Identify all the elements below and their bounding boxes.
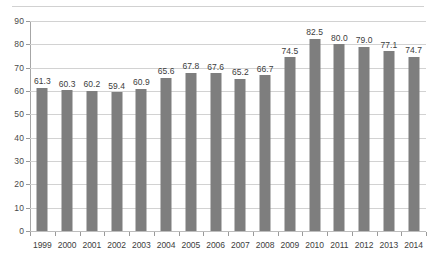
bar[interactable] — [62, 90, 73, 231]
x-axis-tick-label: 2002 — [104, 241, 130, 250]
y-axis-labels: 0102030405060708090 — [0, 0, 24, 264]
bar[interactable] — [408, 57, 419, 231]
y-axis-tick-label: 90 — [2, 17, 24, 26]
x-axis-tick — [426, 232, 427, 236]
x-axis-tick — [203, 232, 204, 236]
x-axis-tick-label: 2010 — [302, 241, 328, 250]
y-axis-tick-label: 80 — [2, 40, 24, 49]
x-axis-tick-label: 2003 — [128, 241, 154, 250]
bar[interactable] — [260, 75, 271, 231]
x-axis-tick — [302, 232, 303, 236]
bar[interactable] — [111, 92, 122, 231]
y-axis-tick — [26, 161, 30, 162]
x-axis: 1999200020012002200320042005200620072008… — [30, 232, 426, 262]
x-axis-tick — [327, 232, 328, 236]
page-separator-rule — [12, 6, 424, 7]
y-axis-tick-label: 30 — [2, 157, 24, 166]
x-axis-tick-label: 2013 — [376, 241, 402, 250]
x-axis-tick-label: 2014 — [401, 241, 427, 250]
x-axis-tick — [179, 232, 180, 236]
x-axis-tick — [228, 232, 229, 236]
bar-chart: 0102030405060708090 61.360.360.259.460.9… — [0, 0, 432, 264]
y-axis-tick-label: 40 — [2, 134, 24, 143]
bar[interactable] — [185, 73, 196, 231]
bar-slot: 79.0 — [352, 21, 377, 231]
x-axis-tick — [80, 232, 81, 236]
bar-slot: 59.4 — [104, 21, 129, 231]
bar-slot: 74.5 — [278, 21, 303, 231]
x-axis-tick — [278, 232, 279, 236]
bar[interactable] — [235, 79, 246, 231]
bar-slot: 80.0 — [327, 21, 352, 231]
x-axis-tick — [154, 232, 155, 236]
x-axis-tick-label: 2004 — [153, 241, 179, 250]
x-axis-tick-label: 2012 — [351, 241, 377, 250]
bar-slot: 77.1 — [377, 21, 402, 231]
bar-slot: 74.7 — [401, 21, 426, 231]
bar[interactable] — [161, 78, 172, 231]
y-axis-tick — [26, 91, 30, 92]
bar-slot: 60.3 — [55, 21, 80, 231]
bar-slot: 65.6 — [154, 21, 179, 231]
x-axis-tick-label: 2009 — [277, 241, 303, 250]
bar-value-label: 74.7 — [399, 46, 429, 55]
bar-slot: 61.3 — [30, 21, 55, 231]
bar-value-label: 60.9 — [126, 78, 156, 87]
y-axis-tick — [26, 138, 30, 139]
bar-slot: 60.9 — [129, 21, 154, 231]
x-axis-tick-label: 2001 — [79, 241, 105, 250]
y-axis-tick-label: 70 — [2, 64, 24, 73]
x-axis-tick — [377, 232, 378, 236]
y-axis-tick — [26, 208, 30, 209]
bar[interactable] — [86, 91, 97, 231]
bar-slot: 65.2 — [228, 21, 253, 231]
bar[interactable] — [284, 57, 295, 231]
bar[interactable] — [37, 88, 48, 231]
x-axis-tick-label: 2007 — [227, 241, 253, 250]
x-axis-tick — [352, 232, 353, 236]
x-axis-tick — [129, 232, 130, 236]
x-axis-tick-label: 2000 — [54, 241, 80, 250]
x-axis-tick-label: 1999 — [29, 241, 55, 250]
x-axis-tick-label: 2011 — [326, 241, 352, 250]
y-axis-tick-label: 60 — [2, 87, 24, 96]
bar[interactable] — [309, 39, 320, 232]
y-axis-tick-label: 20 — [2, 180, 24, 189]
bar-value-label: 66.7 — [250, 65, 280, 74]
bar-slot: 67.8 — [179, 21, 204, 231]
bar[interactable] — [334, 44, 345, 231]
x-axis-tick-label: 2005 — [178, 241, 204, 250]
y-axis-tick-label: 10 — [2, 204, 24, 213]
y-axis-tick — [26, 68, 30, 69]
x-axis-tick — [104, 232, 105, 236]
y-axis-tick — [26, 231, 30, 232]
x-axis-tick-label: 2006 — [203, 241, 229, 250]
x-axis-tick-label: 2008 — [252, 241, 278, 250]
y-axis-tick-label: 0 — [2, 227, 24, 236]
x-axis-tick — [253, 232, 254, 236]
y-axis-tick — [26, 184, 30, 185]
plot-area: 61.360.360.259.460.965.667.867.665.266.7… — [30, 21, 426, 231]
bar-value-label: 74.5 — [275, 47, 305, 56]
bar[interactable] — [210, 73, 221, 231]
bar[interactable] — [359, 47, 370, 231]
bar-slot: 60.2 — [80, 21, 105, 231]
x-axis-tick — [30, 232, 31, 236]
bar-slot: 66.7 — [253, 21, 278, 231]
y-axis-tick — [26, 114, 30, 115]
x-axis-tick — [401, 232, 402, 236]
bar-slot: 82.5 — [302, 21, 327, 231]
y-axis-tick — [26, 21, 30, 22]
bar-slot: 67.6 — [203, 21, 228, 231]
bar[interactable] — [383, 51, 394, 231]
y-axis-tick — [26, 44, 30, 45]
y-axis-tick-label: 50 — [2, 110, 24, 119]
bar[interactable] — [136, 89, 147, 231]
x-axis-tick — [55, 232, 56, 236]
